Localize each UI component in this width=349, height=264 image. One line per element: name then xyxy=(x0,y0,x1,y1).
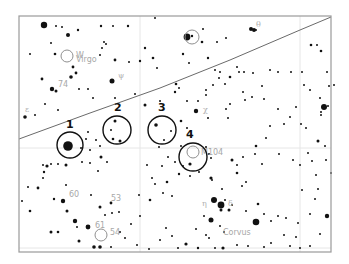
star xyxy=(65,164,68,167)
star xyxy=(309,89,311,91)
star xyxy=(154,123,158,127)
star xyxy=(299,247,301,249)
star xyxy=(270,220,272,222)
star xyxy=(198,171,200,173)
star xyxy=(42,177,44,179)
star xyxy=(57,231,60,234)
star xyxy=(244,99,246,101)
star xyxy=(218,202,225,209)
star xyxy=(27,186,29,188)
star xyxy=(110,246,112,248)
star xyxy=(242,91,244,93)
star xyxy=(43,171,45,173)
star xyxy=(197,100,199,102)
star xyxy=(174,161,176,163)
star xyxy=(50,42,52,44)
chart-label: 61 xyxy=(95,221,105,230)
star xyxy=(301,71,303,73)
chart-label: 74 xyxy=(58,80,68,89)
star xyxy=(202,28,204,30)
star xyxy=(220,209,223,212)
target-number: 3 xyxy=(158,101,166,114)
star xyxy=(283,123,285,125)
star xyxy=(219,71,221,73)
star xyxy=(277,108,279,110)
star xyxy=(300,123,302,125)
star xyxy=(191,35,193,37)
star xyxy=(171,195,173,197)
star xyxy=(303,84,305,86)
star xyxy=(309,213,311,215)
star xyxy=(319,97,321,99)
star xyxy=(178,173,180,175)
star xyxy=(189,175,191,177)
star xyxy=(229,76,232,79)
star xyxy=(269,69,271,71)
star xyxy=(251,96,253,98)
star xyxy=(265,137,267,139)
star xyxy=(110,129,112,131)
star xyxy=(314,198,316,200)
star xyxy=(297,222,299,224)
star xyxy=(124,237,126,239)
star xyxy=(95,139,97,141)
star xyxy=(310,44,313,47)
star xyxy=(170,130,172,132)
target-number: 2 xyxy=(114,101,122,114)
star xyxy=(114,120,117,123)
star xyxy=(182,53,184,55)
star xyxy=(245,181,247,183)
star xyxy=(99,145,101,147)
star xyxy=(130,223,132,225)
star xyxy=(61,199,65,203)
star xyxy=(209,218,214,223)
chart-label: 53 xyxy=(111,194,121,203)
star xyxy=(118,211,120,213)
star xyxy=(66,210,69,213)
star xyxy=(41,22,47,28)
star xyxy=(34,114,36,116)
star xyxy=(177,247,179,249)
star xyxy=(136,244,138,246)
star xyxy=(231,159,234,162)
star xyxy=(317,188,319,190)
star xyxy=(154,17,156,19)
star xyxy=(236,66,238,68)
star xyxy=(105,43,107,45)
star xyxy=(55,90,58,93)
star xyxy=(315,174,317,176)
star xyxy=(221,188,223,190)
target-number: 1 xyxy=(66,118,74,131)
star xyxy=(218,77,220,79)
star xyxy=(211,179,213,181)
star xyxy=(119,140,122,143)
star xyxy=(99,206,102,209)
star xyxy=(134,93,136,95)
star xyxy=(247,245,249,247)
star xyxy=(50,231,53,234)
star xyxy=(328,85,330,87)
star xyxy=(166,181,169,184)
star xyxy=(100,25,102,27)
star xyxy=(263,98,265,100)
star-chart: M104W Virgo7460536154Corvusψχηδθε 1234 xyxy=(0,0,349,264)
star xyxy=(112,25,114,27)
star xyxy=(203,215,205,217)
star xyxy=(236,164,238,166)
star xyxy=(144,47,146,49)
star xyxy=(162,192,164,194)
star xyxy=(214,247,216,249)
star xyxy=(81,161,83,163)
star xyxy=(216,41,218,43)
star xyxy=(45,164,48,167)
star xyxy=(21,200,23,202)
star xyxy=(73,219,77,223)
star xyxy=(242,156,244,158)
star xyxy=(221,246,224,249)
chart-label: η xyxy=(202,199,207,208)
star xyxy=(138,194,140,196)
star xyxy=(87,131,89,133)
star xyxy=(98,245,102,249)
star xyxy=(54,53,57,56)
star xyxy=(214,69,216,71)
